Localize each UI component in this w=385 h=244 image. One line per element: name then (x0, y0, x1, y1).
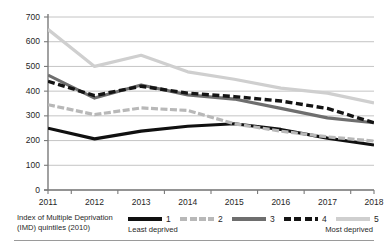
data-series-group (48, 29, 374, 145)
legend-swatch-3 (232, 217, 266, 221)
legend-swatch-2 (180, 217, 214, 221)
legend-note-least-deprived: Least deprived (128, 225, 178, 235)
chart-container: Sure Start spend per eligible child (£) … (0, 0, 385, 244)
bottom-divider (14, 240, 374, 241)
y-tick-label-0: 0 (14, 186, 40, 195)
axis-lines-group (44, 14, 374, 190)
legend-note-most-deprived: Most deprived (325, 225, 373, 235)
gridlines-group (48, 17, 374, 190)
x-tick-label-2018: 2018 (354, 197, 385, 207)
x-tick-label-2015: 2015 (214, 197, 254, 207)
legend-swatch-1 (128, 217, 162, 221)
series-line-1 (48, 124, 374, 145)
legend-title: Index of Multiple Deprivation (IMD) quin… (17, 213, 127, 232)
y-tick-label-600: 600 (14, 37, 40, 46)
legend-label-4: 4 (322, 214, 327, 224)
x-tick-label-2012: 2012 (75, 197, 115, 207)
legend-label-5: 5 (374, 214, 379, 224)
y-tick-label-200: 200 (14, 136, 40, 145)
series-line-2 (48, 105, 374, 141)
chart-plot-svg (0, 0, 385, 244)
y-tick-label-500: 500 (14, 62, 40, 71)
legend-swatch-5 (336, 217, 370, 221)
legend-title-line2: (IMD) quintiles (2010) (17, 223, 127, 233)
x-tick-label-2013: 2013 (121, 197, 161, 207)
legend-label-3: 3 (270, 214, 275, 224)
y-tick-label-700: 700 (14, 13, 40, 22)
x-tick-label-2017: 2017 (307, 197, 347, 207)
legend-label-2: 2 (218, 214, 223, 224)
y-tick-label-100: 100 (14, 161, 40, 170)
y-tick-label-300: 300 (14, 111, 40, 120)
x-tick-label-2011: 2011 (28, 197, 68, 207)
x-tick-label-2014: 2014 (168, 197, 208, 207)
y-tick-label-400: 400 (14, 87, 40, 96)
legend-swatch-4 (284, 217, 318, 221)
x-tick-label-2016: 2016 (261, 197, 301, 207)
legend-title-line1: Index of Multiple Deprivation (17, 213, 127, 223)
legend-label-1: 1 (166, 214, 171, 224)
